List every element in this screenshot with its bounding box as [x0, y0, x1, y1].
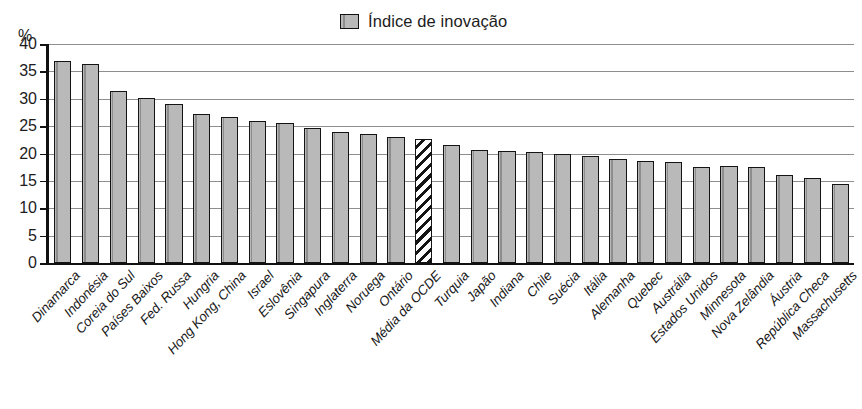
y-tick-mark [40, 236, 47, 238]
legend-swatch-icon [340, 14, 359, 29]
bar [637, 161, 654, 263]
y-tick-label: 5 [28, 227, 37, 245]
bar [387, 137, 404, 263]
bar [693, 167, 710, 263]
y-tick-label: 0 [28, 254, 37, 272]
bar [804, 178, 821, 263]
bar [276, 123, 293, 263]
bar [249, 121, 266, 263]
bar [832, 184, 849, 263]
bar [304, 128, 321, 263]
innovation-index-bar-chart: % Índice de inovação 0510152025303540 Di… [0, 0, 862, 409]
legend-label: Índice de inovação [368, 12, 507, 31]
bar [82, 64, 99, 263]
bar [415, 139, 432, 263]
bar [554, 154, 571, 264]
y-tick-mark [40, 181, 47, 183]
y-tick-label: 40 [19, 35, 37, 53]
x-axis-category-labels: DinamarcaIndonésiaCoreia do SulPaíses Ba… [49, 268, 862, 409]
bar [498, 151, 515, 263]
bar [221, 117, 238, 263]
bar [54, 61, 71, 263]
y-tick-label: 30 [19, 90, 37, 108]
bar [138, 98, 155, 263]
bar [776, 175, 793, 263]
bar-series [49, 44, 854, 263]
bar [582, 156, 599, 263]
y-tick-mark [40, 154, 47, 156]
bar [748, 167, 765, 263]
bar [471, 150, 488, 263]
y-tick-mark [40, 44, 47, 46]
y-tick-mark [40, 208, 47, 210]
bar [609, 159, 626, 263]
chart-legend: Índice de inovação [340, 10, 507, 32]
y-tick-label: 35 [19, 62, 37, 80]
y-tick-label: 15 [19, 172, 37, 190]
y-tick-label: 10 [19, 199, 37, 217]
bar [165, 104, 182, 263]
bar [443, 145, 460, 263]
bar [110, 91, 127, 263]
plot-area: 0510152025303540 [46, 44, 854, 265]
y-tick-mark [40, 99, 47, 101]
bar [360, 134, 377, 263]
y-tick-label: 20 [19, 145, 37, 163]
bar [665, 162, 682, 263]
bar [526, 152, 543, 263]
y-tick-label: 25 [19, 117, 37, 135]
bar [332, 132, 349, 263]
y-tick-mark [40, 263, 47, 265]
bar [193, 114, 210, 263]
bar [720, 166, 737, 263]
y-tick-mark [40, 71, 47, 73]
y-tick-mark [40, 126, 47, 128]
